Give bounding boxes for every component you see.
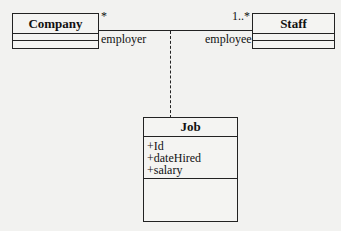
class-staff: Staff [252,13,335,49]
class-company-attributes [13,34,98,41]
class-job-attributes: +Id +dateHired +salary [144,137,237,179]
class-company-operations [13,41,98,48]
class-staff-attributes [253,34,334,41]
multiplicity-staff: 1..* [232,9,250,24]
role-employer: employer [101,32,146,47]
class-company: Company [12,13,99,49]
role-employee: employee [205,32,252,47]
class-job: Job +Id +dateHired +salary [143,117,238,222]
class-staff-operations [253,41,334,48]
multiplicity-company: * [101,9,107,24]
association-line [99,30,252,31]
class-job-operations [144,179,237,221]
attribute-salary: +salary [144,164,237,176]
association-class-connector [170,31,171,118]
class-company-name: Company [13,14,98,34]
class-staff-name: Staff [253,14,334,34]
class-job-name: Job [144,118,237,137]
